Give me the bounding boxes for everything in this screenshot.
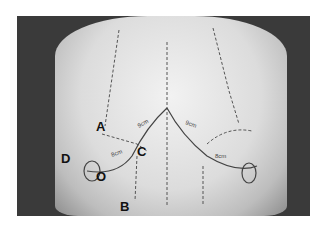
measurement-text: 8cm bbox=[215, 153, 226, 159]
dashed-arc-right bbox=[207, 130, 252, 144]
vertical-lower-left bbox=[135, 156, 137, 201]
surgical-markings: 9cm 8cm 9cm 8cm bbox=[17, 16, 310, 216]
clinical-photo: 9cm 8cm 9cm 8cm bbox=[17, 16, 310, 216]
curve-right bbox=[167, 108, 257, 168]
measurement-text: 9cm bbox=[137, 118, 150, 129]
circle-right bbox=[242, 163, 256, 183]
measurement-text: 9cm bbox=[185, 119, 198, 129]
measurement-text: 8cm bbox=[110, 148, 123, 158]
vertical-line-left bbox=[105, 30, 119, 126]
marker-label-b: B bbox=[120, 200, 129, 213]
marker-label-o: O bbox=[96, 170, 106, 183]
marker-label-d: D bbox=[61, 152, 70, 165]
marker-label-a: A bbox=[96, 120, 105, 133]
curve-left bbox=[87, 108, 167, 172]
marker-label-c: C bbox=[137, 145, 146, 158]
vertical-line-right bbox=[213, 28, 239, 124]
